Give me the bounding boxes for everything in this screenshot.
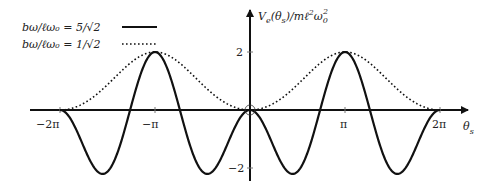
tick-label-neg2pi: −2π <box>36 118 59 131</box>
legend: bω/ℓω₀ = 5/√2 bω/ℓω₀ = 1/√2 <box>22 21 157 51</box>
tick-label-2pi: 2π <box>432 118 446 131</box>
tick-label-y2: 2 <box>236 46 243 59</box>
x-axis-label: θs <box>463 120 474 136</box>
tick-label-pi: π <box>340 118 347 131</box>
tick-label-yneg2: −2 <box>228 162 244 175</box>
legend-label-solid: bω/ℓω₀ = 5/√2 <box>22 21 101 34</box>
legend-label-dotted: bω/ℓω₀ = 1/√2 <box>22 38 101 51</box>
potential-chart: −2π −π π 2π 2 −2 Ve(θs)/mℓ2ω02 θs bω/ℓω₀… <box>0 0 495 191</box>
tick-label-negpi: −π <box>142 118 158 131</box>
y-axis-label: Ve(θs)/mℓ2ω02 <box>258 7 328 25</box>
